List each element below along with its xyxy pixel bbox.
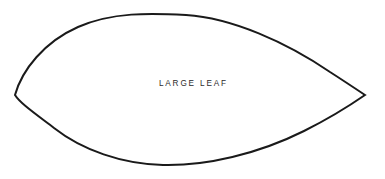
- leaf-outline-path: [15, 14, 365, 165]
- leaf-label: LARGE LEAF: [0, 79, 385, 89]
- leaf-diagram-canvas: LARGE LEAF: [0, 0, 385, 179]
- leaf-shape-svg: [0, 0, 385, 179]
